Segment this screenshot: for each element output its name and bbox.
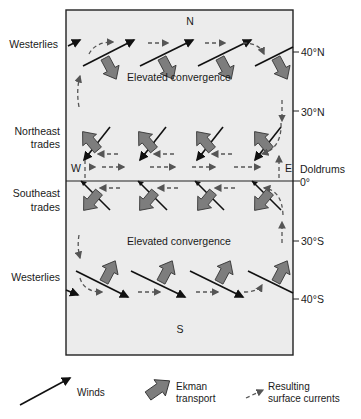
- west-label: W: [71, 162, 81, 174]
- latitude-ticks: [293, 52, 299, 299]
- legend-ekman-icon: [142, 373, 175, 404]
- lat-40n-label: 40°N: [301, 46, 324, 58]
- se-trades-label-1: Southeast: [13, 187, 60, 199]
- legend-currents-label-2: surface currents: [268, 393, 340, 404]
- south-label: S: [176, 323, 183, 335]
- lat-0-label: 0°: [300, 176, 310, 188]
- ne-trades-label-2: trades: [31, 138, 60, 150]
- ne-trades-label-1: Northeast: [14, 125, 60, 137]
- legend-ekman-label-2: transport: [176, 393, 216, 404]
- convergence-south-label: Elevated convergence: [127, 235, 231, 247]
- lat-30n-label: 30°N: [301, 106, 324, 118]
- east-label: E: [285, 162, 292, 174]
- se-trades-label-2: trades: [31, 201, 60, 213]
- ocean-panel: [66, 10, 293, 355]
- legend-wind-icon: [20, 378, 70, 405]
- convergence-north-label: Elevated convergence: [127, 71, 231, 83]
- legend-ekman-label-1: Ekman: [176, 381, 207, 392]
- lat-30s-label: 30°S: [301, 235, 324, 247]
- westerlies-south-label: Westerlies: [11, 271, 60, 283]
- legend-winds-label: Winds: [77, 387, 105, 398]
- legend-current-icon: [246, 390, 263, 398]
- legend: Winds Ekman transport Resulting surface …: [20, 373, 340, 405]
- lat-40s-label: 40°S: [301, 293, 324, 305]
- westerlies-north-label: Westerlies: [9, 38, 58, 50]
- legend-currents-label-1: Resulting: [268, 381, 310, 392]
- ekman-diagram: N Elevated convergence Elevated converge…: [0, 0, 361, 419]
- north-label: N: [186, 15, 194, 27]
- doldrums-label: Doldrums: [300, 163, 345, 175]
